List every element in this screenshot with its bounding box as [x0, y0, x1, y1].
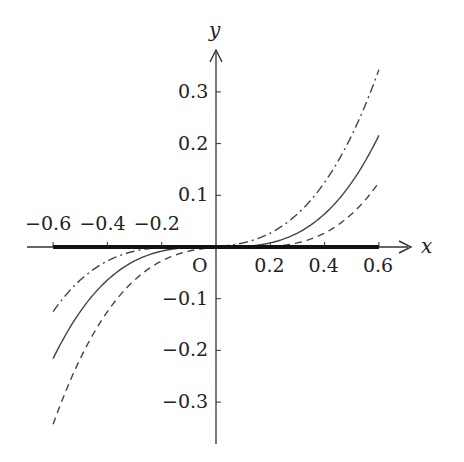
- x-tick-label: 0.6: [363, 256, 393, 275]
- y-tick-label: −0.3: [162, 392, 208, 411]
- x-tick-label: −0.6: [25, 214, 71, 233]
- y-tick-label: −0.1: [162, 289, 208, 308]
- x-axis-label: x: [421, 236, 432, 256]
- x-tick-label: −0.2: [134, 214, 180, 233]
- y-tick-label: −0.2: [162, 340, 208, 359]
- origin-label: O: [192, 256, 208, 275]
- x-tick-label: 0.2: [254, 256, 284, 275]
- y-axis-label: y: [209, 20, 220, 40]
- x-tick-label: 0.4: [309, 256, 339, 275]
- x-tick-label: −0.4: [79, 214, 125, 233]
- y-tick-label: 0.1: [178, 185, 208, 204]
- y-tick-label: 0.2: [178, 134, 208, 153]
- y-tick-label: 0.3: [178, 82, 208, 101]
